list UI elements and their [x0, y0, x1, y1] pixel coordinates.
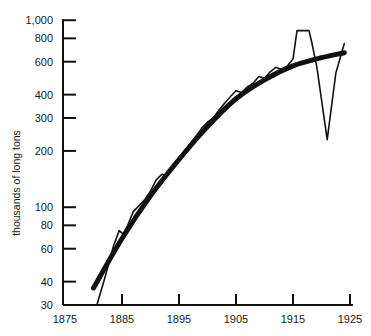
y-tick-label: 600: [35, 56, 53, 68]
y-tick-label: 200: [35, 145, 53, 157]
y-tick-label: 60: [41, 243, 53, 255]
x-tick-label: 1895: [167, 313, 191, 325]
x-tick-label: 1905: [224, 313, 248, 325]
x-tick-label: 1915: [281, 313, 305, 325]
y-tick-label: 40: [41, 276, 53, 288]
actual-line: [97, 31, 344, 305]
y-axis: 304060801002003004006008001,000: [25, 14, 76, 311]
y-tick-label: 800: [35, 32, 53, 44]
trend-line: [94, 53, 345, 288]
line-chart: 304060801002003004006008001,000 18751885…: [0, 0, 371, 336]
y-tick-label: 30: [41, 299, 53, 311]
y-tick-label: 100: [35, 201, 53, 213]
x-tick-label: 1925: [338, 313, 362, 325]
series-group: [94, 31, 345, 305]
y-tick-label: 300: [35, 112, 53, 124]
y-tick-label: 80: [41, 219, 53, 231]
x-tick-label: 1885: [110, 313, 134, 325]
y-axis-title: thousands of long tons: [10, 130, 22, 236]
x-tick-label: 1875: [53, 313, 77, 325]
y-tick-label: 400: [35, 89, 53, 101]
y-tick-label: 1,000: [25, 14, 53, 26]
